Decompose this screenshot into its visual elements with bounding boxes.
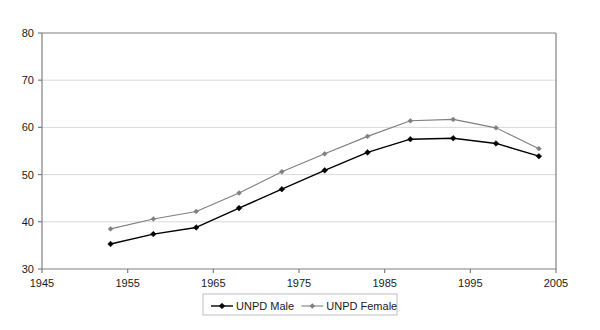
y-tick-label-80: 80 bbox=[22, 27, 34, 39]
y-tick-label-50: 50 bbox=[22, 169, 34, 181]
chart-canvas: 304050607080 194519551965197519851995200… bbox=[0, 0, 600, 330]
legend-label: UNPD Male bbox=[236, 300, 294, 312]
x-tick-label-1955: 1955 bbox=[115, 277, 139, 289]
x-tick-label-2005: 2005 bbox=[544, 277, 568, 289]
y-tick-label-40: 40 bbox=[22, 216, 34, 228]
y-tick-label-30: 30 bbox=[22, 263, 34, 275]
x-tick-label-1985: 1985 bbox=[372, 277, 396, 289]
x-tick-label-1995: 1995 bbox=[458, 277, 482, 289]
x-tick-label-1975: 1975 bbox=[287, 277, 311, 289]
plot-area-background bbox=[42, 33, 556, 269]
x-tick-label-1945: 1945 bbox=[30, 277, 54, 289]
chart-legend: UNPD MaleUNPD Female bbox=[203, 294, 397, 315]
line-chart: 304050607080 194519551965197519851995200… bbox=[0, 0, 600, 330]
x-tick-label-1965: 1965 bbox=[201, 277, 225, 289]
y-tick-label-60: 60 bbox=[22, 121, 34, 133]
y-tick-label-70: 70 bbox=[22, 74, 34, 86]
legend-label: UNPD Female bbox=[326, 300, 397, 312]
